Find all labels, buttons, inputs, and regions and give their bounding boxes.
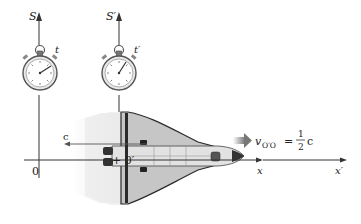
s-frame-label: S [29,10,37,23]
equals-sign: = [284,135,293,148]
x-prime-axis [263,158,347,163]
x-prime-axis-label: x′ [335,165,344,176]
origin-o-label: 0 [32,165,39,178]
stopwatch-s-icon [22,46,57,91]
velocity-symbol: v [255,135,262,148]
light-speed-label: c [63,131,69,142]
stopwatch-s-prime-icon [101,46,136,91]
fraction-numerator: 1 [298,129,304,139]
s-frame-axis [36,12,42,178]
velocity-equation: v O′O = 1 2 c [255,129,313,152]
time-t-label: t [55,44,60,55]
x-prime-axis-arrowhead [340,158,347,163]
velocity-arrow-icon [233,133,252,148]
time-t-prime-label: t′ [134,44,141,55]
s-prime-frame-label: S′ [106,10,117,23]
velocity-subscript: O′O [262,141,276,150]
x-axis-label: x [257,165,263,176]
s-prime-axis-arrowhead [116,12,122,21]
origin-o-prime-label: + 0′ [112,154,135,167]
relativity-diagram: S S′ t [0,0,361,224]
fraction-denominator: 2 [298,142,304,152]
s-axis-arrowhead [36,12,42,21]
velocity-unit: c [307,135,313,148]
x-axis-arrowhead [256,158,263,163]
